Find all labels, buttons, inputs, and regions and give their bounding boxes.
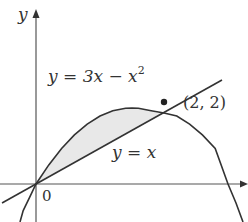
y-axis-arrow-icon: [33, 9, 40, 18]
parabola-label-text: y = 3x − x: [47, 66, 138, 86]
line-label: y = x: [111, 142, 157, 162]
intersection-label: (2, 2): [183, 93, 226, 112]
x-axis-arrow-icon: [240, 181, 248, 188]
parabola-label-exponent: 2: [138, 64, 145, 77]
origin-label: 0: [42, 187, 52, 205]
diagram: y 0 y = 3x − x2 y = x (2, 2): [0, 0, 248, 222]
parabola-label: y = 3x − x2: [47, 64, 145, 86]
intersection-point: [161, 99, 167, 105]
y-axis-label: y: [17, 4, 28, 24]
